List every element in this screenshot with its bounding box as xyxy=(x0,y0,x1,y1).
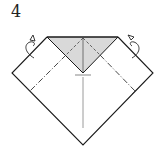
mountain-fold-left xyxy=(30,55,66,91)
turn-over-arrow-right-icon xyxy=(128,35,139,58)
mountain-fold-right xyxy=(100,55,135,91)
origami-diagram xyxy=(0,0,155,146)
shaded-flap xyxy=(47,37,118,73)
